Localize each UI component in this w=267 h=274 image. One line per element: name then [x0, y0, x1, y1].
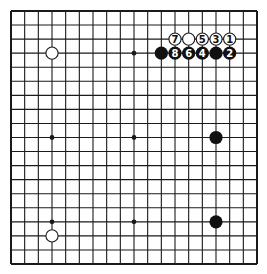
black-stone [155, 47, 168, 60]
black-stone [209, 131, 222, 144]
star-point [50, 135, 55, 140]
white-stone [46, 230, 58, 242]
black-stone: 2 [223, 47, 236, 60]
white-stone: 5 [196, 33, 208, 45]
move-number: 3 [213, 34, 220, 45]
black-stone [209, 47, 222, 60]
move-number: 8 [172, 48, 179, 59]
go-board: 12345678 [0, 0, 267, 274]
star-point [50, 219, 55, 224]
move-number: 4 [199, 48, 206, 59]
move-number: 1 [226, 34, 233, 45]
black-stone [209, 215, 222, 228]
white-stone: 1 [224, 33, 236, 45]
move-number: 7 [172, 34, 179, 45]
white-stone [183, 33, 195, 45]
black-stone: 8 [168, 47, 181, 60]
star-point [132, 135, 137, 140]
move-number: 5 [199, 34, 206, 45]
move-number: 2 [226, 48, 233, 59]
black-stone: 4 [196, 47, 209, 60]
black-stone: 6 [182, 47, 195, 60]
move-number: 6 [185, 48, 192, 59]
star-point [132, 51, 137, 56]
white-stone [46, 47, 58, 59]
white-stone: 7 [169, 33, 181, 45]
white-stone: 3 [210, 33, 222, 45]
star-point [132, 219, 137, 224]
